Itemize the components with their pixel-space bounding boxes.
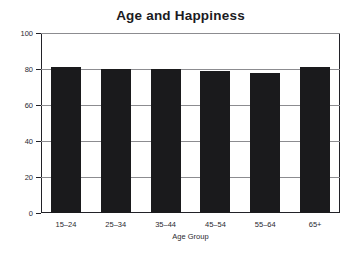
y-tick-label: 100 [20, 29, 33, 38]
bar [51, 67, 81, 213]
bar [151, 69, 181, 213]
y-tick-label: 20 [25, 173, 33, 182]
bar [300, 67, 330, 213]
x-tick-label: 25–34 [105, 220, 126, 229]
x-tick-label: 15–24 [55, 220, 76, 229]
x-tick-label: 45–54 [205, 220, 226, 229]
y-tick-label: 40 [25, 137, 33, 146]
x-tick-label: 65+ [309, 220, 322, 229]
bar [250, 73, 280, 213]
bar-chart: Age and Happiness 020406080100 15–2425–3… [0, 0, 361, 259]
bar-series [41, 33, 340, 213]
x-tick-label: 35–44 [155, 220, 176, 229]
x-tick-label: 55–64 [255, 220, 276, 229]
x-axis: 15–2425–3435–4445–5455–6465+ [41, 214, 340, 232]
chart-title: Age and Happiness [0, 8, 361, 24]
bar [200, 71, 230, 213]
y-tick-label: 0 [29, 209, 33, 218]
x-axis-title: Age Group [41, 232, 340, 241]
y-tick-label: 60 [25, 101, 33, 110]
bar [101, 69, 131, 213]
y-tick-label: 80 [25, 65, 33, 74]
y-axis: 020406080100 [0, 33, 41, 213]
